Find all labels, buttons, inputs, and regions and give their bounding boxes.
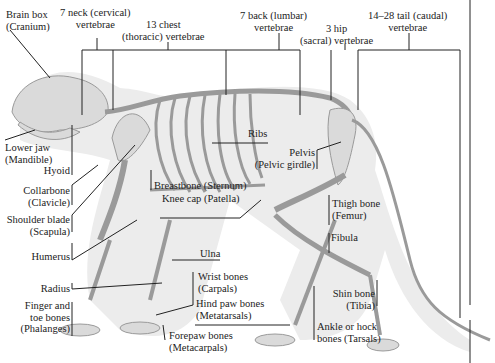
humerus-label: Humerus xyxy=(10,251,70,263)
pelvis-label: Pelvis (Pelvic girdle) xyxy=(250,147,315,170)
ribs-label: Ribs xyxy=(248,128,267,140)
label-line: Wrist bones xyxy=(198,271,248,283)
label-line: (Cranium) xyxy=(6,21,50,33)
label-line: bones (Tarsals) xyxy=(317,333,381,345)
label-line: Shoulder blade xyxy=(0,214,70,226)
label-line: Ankle or hock xyxy=(317,321,381,333)
label-line: (Metatarsals) xyxy=(196,310,264,322)
shoulder-blade-label: Shoulder blade (Scapula) xyxy=(0,214,70,237)
label-line: Pelvis xyxy=(250,147,315,159)
label-line: (Phalanges) xyxy=(5,323,70,335)
label-line: (Pelvic girdle) xyxy=(250,159,315,171)
label-line: (Mandible) xyxy=(5,154,52,166)
label-line: (Femur) xyxy=(332,210,380,222)
label-line: vertebrae xyxy=(368,22,447,34)
label-line: (Metacarpals) xyxy=(169,342,233,354)
label-line: Finger and xyxy=(5,300,70,312)
label-line: Shin bone xyxy=(320,288,375,300)
cervical-vertebrae-label: 7 neck (cervical) vertebrae xyxy=(60,7,131,30)
label-line: (Carpals) xyxy=(198,283,248,295)
label-line: vertebrae xyxy=(60,19,131,31)
brain-box-label: Brain box (Cranium) xyxy=(6,9,50,32)
label-line: 7 back (lumbar) xyxy=(240,10,307,22)
label-line: (thoracic) vertebrae xyxy=(122,31,204,43)
knee-cap-label: Knee cap (Patella) xyxy=(162,193,240,205)
radius-label: Radius xyxy=(10,283,70,295)
label-line: Collarbone xyxy=(10,185,70,197)
label-line: 3 hip xyxy=(300,23,373,35)
phalanges-label: Finger and toe bones (Phalanges) xyxy=(5,300,70,335)
label-line: 14–28 tail (caudal) xyxy=(368,10,447,22)
label-line: (Scapula) xyxy=(0,226,70,238)
hind-paw-bones-label: Hind paw bones (Metatarsals) xyxy=(196,298,264,321)
fibula-label: Fibula xyxy=(331,232,358,244)
lumbar-vertebrae-label: 7 back (lumbar) vertebrae xyxy=(240,10,307,33)
ulna-label: Ulna xyxy=(200,248,220,260)
shin-bone-label: Shin bone (Tibia) xyxy=(320,288,375,311)
label-line: (Tibia) xyxy=(320,300,375,312)
hyoid-label: Hyoid xyxy=(30,165,70,177)
breastbone-label: Breastbone (Sternum) xyxy=(154,180,246,192)
sacral-vertebrae-label: 3 hip (sacral) vertebrae xyxy=(300,23,373,46)
lower-jaw-label: Lower jaw (Mandible) xyxy=(5,142,52,165)
label-line: (sacral) vertebrae xyxy=(300,35,373,47)
wrist-bones-label: Wrist bones (Carpals) xyxy=(198,271,248,294)
label-line: vertebrae xyxy=(240,22,307,34)
cat-skeleton-diagram: 7 neck (cervical) vertebrae 13 chest (th… xyxy=(0,0,495,363)
label-line: Lower jaw xyxy=(5,142,52,154)
label-line: toe bones xyxy=(5,312,70,324)
label-line: Brain box xyxy=(6,9,50,21)
collarbone-label: Collarbone (Clavicle) xyxy=(10,185,70,208)
label-line: (Clavicle) xyxy=(10,197,70,209)
caudal-vertebrae-label: 14–28 tail (caudal) vertebrae xyxy=(368,10,447,33)
forepaw-bones-label: Forepaw bones (Metacarpals) xyxy=(169,330,233,353)
label-line: Hind paw bones xyxy=(196,298,264,310)
label-line: 7 neck (cervical) xyxy=(60,7,131,19)
label-line: Thigh bone xyxy=(332,198,380,210)
label-line: Forepaw bones xyxy=(169,330,233,342)
ankle-bones-label: Ankle or hock bones (Tarsals) xyxy=(317,321,381,344)
thigh-bone-label: Thigh bone (Femur) xyxy=(332,198,380,221)
thoracic-vertebrae-label: 13 chest (thoracic) vertebrae xyxy=(122,19,204,42)
label-line: 13 chest xyxy=(122,19,204,31)
